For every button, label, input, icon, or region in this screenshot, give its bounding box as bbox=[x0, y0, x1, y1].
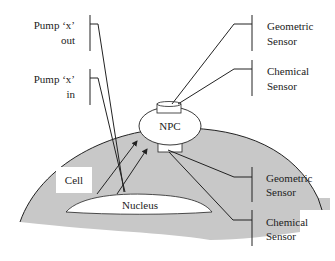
pump-in-label-line2: in bbox=[66, 88, 75, 100]
chem-top-leader bbox=[178, 69, 252, 104]
geo-top-leader bbox=[172, 24, 252, 104]
pump-out-label-line2: out bbox=[61, 34, 75, 46]
geo-top-label-line2: Sensor bbox=[267, 35, 297, 47]
nucleus-label: Nucleus bbox=[122, 199, 158, 211]
geo-top-label-line1: Geometric bbox=[267, 20, 314, 32]
pump-out-label-line1: Pump ‘x’ bbox=[34, 19, 75, 31]
npc-top-cap bbox=[157, 102, 181, 107]
geo-bottom-label-line1: Geometric bbox=[266, 172, 313, 184]
pump-in-label-line1: Pump ‘x’ bbox=[34, 73, 75, 85]
chem-top-label-line2: Sensor bbox=[267, 80, 297, 92]
geo-bottom-label-line2: Sensor bbox=[266, 186, 296, 198]
chem-bottom-label-line2: Sensor bbox=[266, 230, 296, 242]
chem-top-label-line1: Chemical bbox=[267, 65, 309, 77]
npc-sensor-diagram: Pump ‘x’ out Pump ‘x’ in Geometric Senso… bbox=[0, 0, 335, 261]
npc-label: NPC bbox=[159, 120, 180, 132]
chem-bottom-label-line1: Chemical bbox=[266, 216, 308, 228]
cell-label: Cell bbox=[65, 174, 83, 186]
